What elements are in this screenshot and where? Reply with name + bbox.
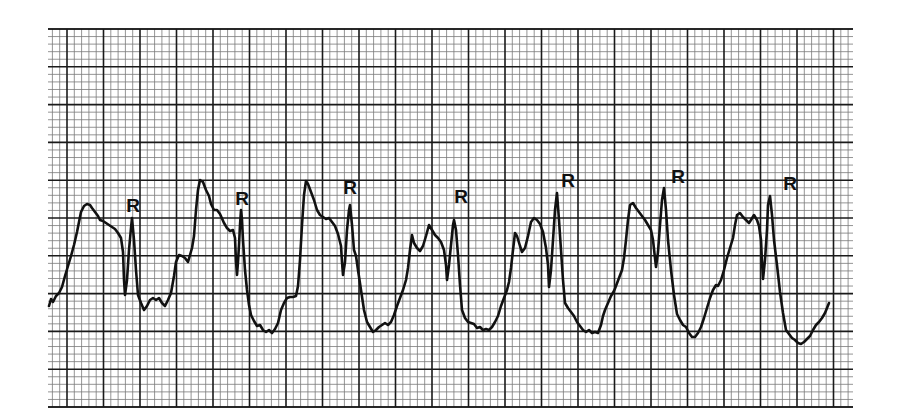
r-wave-label: R (235, 188, 249, 209)
r-wave-label: R (126, 195, 140, 216)
r-wave-label: R (343, 177, 357, 198)
r-wave-label: R (671, 166, 685, 187)
r-wave-label: R (454, 186, 468, 207)
r-wave-label: R (783, 173, 797, 194)
r-wave-label: R (561, 170, 575, 191)
ecg-strip: RRRRRRR (0, 0, 899, 418)
